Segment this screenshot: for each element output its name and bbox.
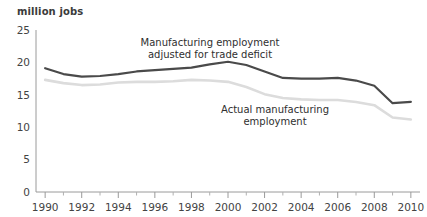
y-tick-label: 20	[17, 56, 30, 68]
x-tick-label: 2008	[361, 201, 388, 213]
y-tick-label: 5	[23, 153, 30, 165]
line-chart-plot: 0510152025 19901992199419961998200020022…	[0, 0, 427, 217]
x-tick-label: 1996	[141, 201, 168, 213]
x-tick-label: 2000	[215, 201, 242, 213]
x-tick-marks	[45, 192, 411, 198]
annotation-line: employment	[243, 116, 306, 127]
x-tick-labels: 1990199219941996199820002002200420062008…	[32, 201, 424, 213]
x-tick-label: 1990	[32, 201, 59, 213]
annotation-line: adjusted for trade deficit	[148, 49, 272, 60]
x-tick-label: 2004	[288, 201, 315, 213]
x-tick-label: 1998	[178, 201, 205, 213]
annotation-line: Manufacturing employment	[141, 37, 280, 48]
x-tick-label: 2010	[397, 201, 424, 213]
y-tick-labels: 0510152025	[17, 24, 30, 198]
y-tick-label: 0	[23, 186, 30, 198]
y-tick-label: 15	[17, 89, 30, 101]
adjusted-series-annotation: Manufacturing employmentadjusted for tra…	[141, 37, 280, 60]
actual-series-annotation: Actual manufacturingemployment	[221, 104, 329, 127]
x-tick-label: 1994	[105, 201, 132, 213]
chart-container: million jobs 0510152025 1990199219941996…	[0, 0, 427, 217]
annotation-line: Actual manufacturing	[221, 104, 329, 115]
x-tick-label: 1992	[68, 201, 95, 213]
y-tick-label: 25	[17, 24, 30, 36]
y-tick-label: 10	[17, 121, 30, 133]
x-tick-label: 2002	[251, 201, 278, 213]
x-tick-label: 2006	[324, 201, 351, 213]
